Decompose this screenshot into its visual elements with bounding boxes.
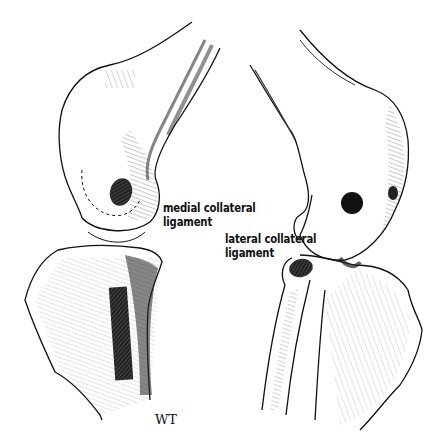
illustration-artwork: [0, 0, 448, 447]
condyle-mark: [388, 186, 398, 200]
fibula-shading: [270, 290, 298, 410]
artist-signature: WT: [155, 412, 177, 427]
lateral-ligament-fibular-attachment: [287, 256, 315, 280]
lateral-ligament-femoral-attachment: [341, 192, 363, 214]
medial-label-line2: ligament: [163, 216, 212, 229]
lateral-condyle-shading: [380, 105, 404, 238]
knee-ligament-illustration: medial collateral ligament lateral colla…: [0, 0, 448, 447]
lateral-label-line2: ligament: [225, 247, 274, 260]
femur-shading: [105, 70, 135, 88]
tibia-lateral-shading: [325, 270, 410, 425]
lateral-label-line1: lateral collateral: [225, 233, 316, 246]
medial-label-line1: medial collateral: [163, 202, 256, 215]
